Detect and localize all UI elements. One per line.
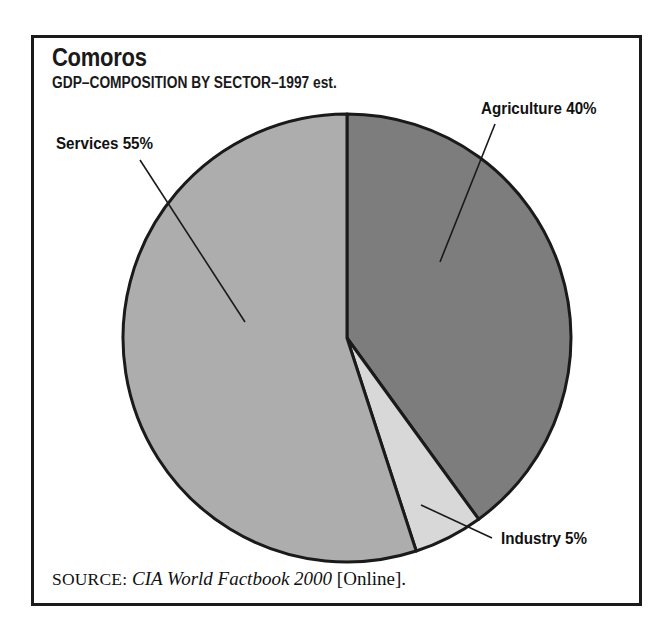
figure-header: Comoros GDP–COMPOSITION BY SECTOR–1997 e… (52, 44, 472, 92)
pie-label-industry: Industry 5% (501, 529, 587, 548)
figure-container: Comoros GDP–COMPOSITION BY SECTOR–1997 e… (0, 0, 668, 639)
source-label: SOURCE: (52, 569, 127, 589)
page-title: Comoros (52, 44, 422, 70)
source-work-title: CIA World Factbook 2000 (132, 568, 332, 589)
pie-label-agriculture: Agriculture 40% (481, 99, 597, 118)
pie-label-services: Services 55% (56, 134, 153, 153)
source-citation: SOURCE: CIA World Factbook 2000 [Online]… (52, 568, 406, 590)
source-medium: [Online]. (337, 568, 406, 589)
chart-subtitle: GDP–COMPOSITION BY SECTOR–1997 est. (52, 74, 413, 92)
